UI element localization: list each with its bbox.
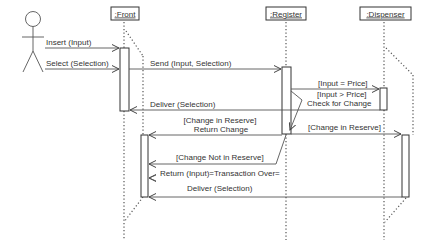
activation-register — [282, 67, 291, 134]
sequence-diagram: :Front :Register :Dispenser — [0, 0, 425, 249]
msg-deliver-2: Deliver (Selection) — [187, 184, 253, 193]
msg-return-change: Return Change — [194, 125, 249, 134]
actor-stick-figure — [22, 12, 44, 73]
object-register-label: :Register — [270, 10, 302, 19]
msg-select: Select (Selection) — [46, 59, 109, 68]
msg-deliver-1: Deliver (Selection) — [150, 100, 216, 109]
msg-change-not-in-reserve: [Change Not in Reserve] — [176, 153, 264, 162]
activation-dispenser-1 — [380, 88, 387, 110]
object-register: :Register — [266, 7, 306, 20]
object-dispenser-label: :Dispenser — [366, 10, 405, 19]
msg-check-change: Check for Change — [307, 99, 372, 108]
activation-dispenser-2 — [402, 135, 409, 197]
object-front: :Front — [111, 7, 139, 20]
messages: Insert (Input) Select (Selection) Send (… — [45, 38, 402, 197]
msg-return-input: Return (Input)=Transaction Over= — [160, 169, 280, 178]
activation-front-2 — [141, 135, 148, 197]
msg-send: Send (Input, Selection) — [150, 59, 232, 68]
object-dispenser: :Dispenser — [360, 7, 411, 20]
object-front-label: :Front — [115, 10, 137, 19]
msg-change-in-reserve-front: [Change in Reserve] — [184, 116, 257, 125]
msg-input-eq-price: [Input = Price] — [318, 79, 368, 88]
activation-front-1 — [120, 48, 129, 111]
msg-insert: Insert (Input) — [46, 38, 92, 47]
msg-input-gt-price: [Input > Price] — [317, 90, 367, 99]
actor-head — [26, 12, 41, 27]
msg-change-in-reserve-dispenser: [Change in Reserve] — [308, 123, 381, 132]
